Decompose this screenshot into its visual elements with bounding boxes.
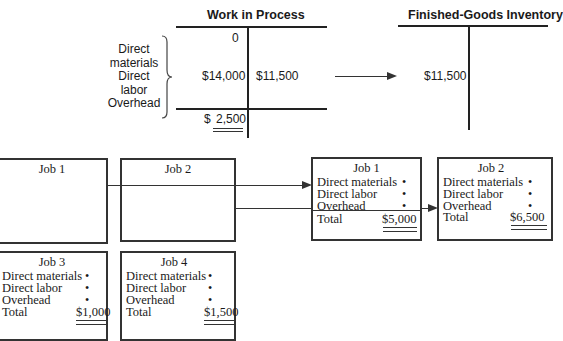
job-total: $1,000 [76, 305, 110, 320]
total-double-underline [383, 227, 417, 232]
wip-balance-double-underline [213, 128, 243, 132]
wip-balance-prefix: $ [204, 112, 211, 126]
transfer-arrow-icon [387, 72, 397, 80]
job-1-sheet-open: Job 1 [0, 158, 108, 244]
job-1-sheet-completed: Job 1 Direct materials Direct labor Over… [311, 157, 422, 241]
wip-account-title: Work in Process [207, 8, 305, 22]
wip-t-top-line [176, 26, 327, 28]
fgi-debit-amount: $11,500 [424, 69, 467, 83]
total-divider [311, 210, 422, 211]
job-total: $1,500 [204, 305, 238, 320]
job-3-title: Job 3 [0, 255, 106, 270]
total-double-underline [204, 320, 236, 325]
wip-beginning-balance: 0 [232, 31, 239, 45]
label-direct-1: Direct [104, 43, 164, 57]
wip-t-vertical-line [247, 26, 249, 138]
wip-debit-amount: $14,000 [202, 69, 245, 83]
label-overhead: Overhead [104, 97, 164, 111]
job-4-title: Job 4 [122, 255, 226, 270]
total-label: Total [2, 305, 28, 320]
total-label: Total [317, 212, 343, 227]
wip-balance-line [176, 108, 327, 110]
transfer-arrow-line [335, 76, 387, 77]
fgi-t-top-line [398, 25, 548, 27]
fgi-account-title: Finished-Goods Inventory [408, 8, 563, 22]
fgi-t-vertical-line [468, 25, 470, 130]
completed-job-2-title: Job 2 [439, 161, 543, 176]
cost-component-labels: Direct materials Direct labor Overhead [104, 43, 164, 111]
total-double-underline [511, 225, 547, 230]
job-total: $6,500 [510, 210, 544, 225]
job-2-title: Job 2 [122, 162, 234, 177]
total-label: Total [443, 210, 469, 225]
total-label: Total [126, 305, 152, 320]
completed-job-1-title: Job 1 [313, 161, 420, 176]
total-double-underline [76, 320, 106, 325]
wip-ending-balance: 2,500 [216, 112, 246, 126]
job-1-transfer-line [107, 185, 304, 186]
label-direct-2: Direct [104, 70, 164, 84]
job-2-sheet-completed: Job 2 Direct materials Direct labor Over… [437, 157, 553, 241]
job-3-sheet: Job 3 Direct materials Direct labor Over… [0, 251, 108, 341]
label-materials: materials [104, 57, 164, 71]
curly-brace-icon [160, 34, 176, 120]
job-4-sheet: Job 4 Direct materials Direct labor Over… [120, 251, 236, 341]
label-labor: labor [104, 84, 164, 98]
job-2-sheet-open: Job 2 [120, 158, 236, 242]
job-1-title: Job 1 [0, 162, 106, 177]
job-total: $5,000 [382, 212, 416, 227]
wip-credit-amount: $11,500 [256, 69, 299, 83]
